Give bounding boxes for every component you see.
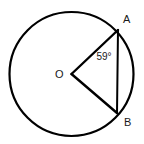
point-label-a: A — [123, 13, 131, 25]
circle-diagram-canvas: A B O 59° — [0, 0, 144, 144]
point-label-o: O — [55, 68, 64, 80]
central-angle-label: 59° — [96, 51, 111, 62]
point-label-b: B — [124, 116, 131, 128]
chord-ab-segment — [117, 30, 118, 113]
radius-ob-segment — [72, 74, 118, 113]
geometry-figure: A B O 59° — [0, 0, 144, 144]
